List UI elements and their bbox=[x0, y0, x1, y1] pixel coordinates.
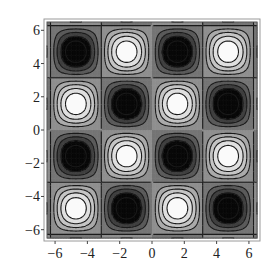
contour-field bbox=[47, 22, 258, 239]
x-tick-label: −2 bbox=[112, 246, 127, 261]
y-tick-label: −6 bbox=[25, 223, 40, 238]
y-tick-label: −2 bbox=[25, 156, 40, 171]
y-tick-label: 0 bbox=[33, 123, 40, 138]
contour-plot: −6−4−20246−6−4−20246 bbox=[0, 0, 263, 275]
y-tick-label: 2 bbox=[33, 90, 40, 105]
x-tick-label: 4 bbox=[213, 246, 220, 261]
y-tick-label: 4 bbox=[33, 57, 40, 72]
x-tick-label: 0 bbox=[149, 246, 156, 261]
x-tick-label: −6 bbox=[48, 246, 63, 261]
y-tick-label: 6 bbox=[33, 23, 40, 38]
x-tick-label: −4 bbox=[80, 246, 95, 261]
x-tick-label: 2 bbox=[181, 246, 188, 261]
y-tick-label: −4 bbox=[25, 189, 40, 204]
x-tick-label: 6 bbox=[245, 246, 252, 261]
